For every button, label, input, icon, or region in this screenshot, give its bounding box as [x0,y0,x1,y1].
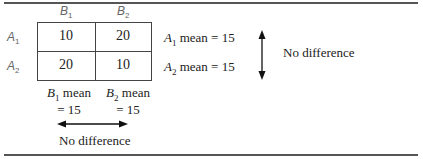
header-letter: B [60,4,68,18]
column-mean-b1: B1 mean = 15 [44,85,94,118]
header-subscript: 1 [68,11,72,20]
mean-letter: B [47,85,55,100]
column-mean-b2-value: = 15 [103,102,153,118]
row-header-a1: A1 [7,30,19,46]
bottom-rule [4,154,418,156]
factorial-grid: 10 20 20 10 [37,22,152,81]
horizontal-double-arrow-icon [57,119,128,129]
header-letter: B [117,4,125,18]
mean-letter: A [164,30,172,45]
mean-word: mean [60,85,91,100]
mean-value: mean = 15 [176,30,234,45]
mean-letter: A [164,59,172,74]
column-effect-label: No difference [59,133,131,149]
column-header-b2: B2 [117,4,129,20]
column-mean-b1-value: = 15 [44,102,94,118]
mean-word: mean [119,85,150,100]
header-subscript: 2 [15,66,19,75]
row-header-a2: A2 [7,59,19,75]
column-mean-b2: B2 mean = 15 [103,85,153,118]
header-letter: A [7,59,15,73]
cell-a2-b1: 20 [38,57,94,73]
column-mean-b1-line1: B1 mean [44,85,94,103]
grid-divider-horizontal [38,51,151,52]
row-mean-a2: A2 mean = 15 [164,59,235,77]
row-effect-label: No difference [283,45,355,61]
column-header-b1: B1 [60,4,72,20]
header-letter: A [7,30,15,44]
header-subscript: 2 [125,11,129,20]
header-subscript: 1 [15,37,19,46]
cell-a1-b2: 20 [95,28,151,44]
mean-value: mean = 15 [176,59,234,74]
vertical-double-arrow-icon [256,30,268,80]
cell-a2-b2: 10 [95,57,151,73]
mean-letter: B [106,85,114,100]
row-mean-a1: A1 mean = 15 [164,30,235,48]
cell-a1-b1: 10 [38,28,94,44]
column-mean-b2-line1: B2 mean [103,85,153,103]
